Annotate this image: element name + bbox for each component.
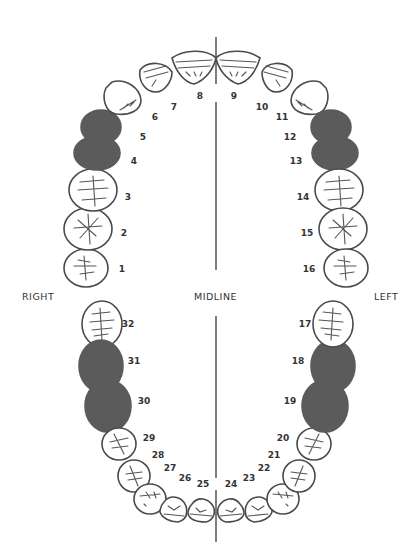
midline-label: MIDLINE — [194, 291, 237, 302]
tooth-number-17: 17 — [299, 319, 312, 329]
tooth-number-2: 2 — [121, 228, 127, 238]
tooth-number-30: 30 — [138, 396, 151, 406]
tooth-13[interactable] — [312, 136, 358, 170]
tooth-26[interactable] — [160, 497, 187, 522]
tooth-6[interactable] — [104, 81, 141, 114]
left-label: LEFT — [374, 291, 398, 302]
tooth-number-25: 25 — [197, 479, 210, 489]
tooth-number-18: 18 — [292, 356, 305, 366]
tooth-15[interactable] — [319, 208, 367, 250]
tooth-number-6: 6 — [152, 112, 158, 122]
right-label: RIGHT — [22, 291, 54, 302]
tooth-number-20: 20 — [277, 433, 290, 443]
tooth-7[interactable] — [140, 63, 172, 92]
tooth-number-28: 28 — [152, 450, 165, 460]
tooth-29[interactable] — [102, 428, 136, 460]
tooth-number-13: 13 — [290, 156, 303, 166]
tooth-number-23: 23 — [243, 473, 256, 483]
tooth-number-12: 12 — [284, 132, 297, 142]
tooth-14[interactable] — [315, 169, 363, 211]
tooth-8[interactable] — [172, 51, 216, 84]
tooth-number-8: 8 — [197, 91, 203, 101]
tooth-24[interactable] — [218, 499, 244, 522]
tooth-number-4: 4 — [131, 156, 137, 166]
tooth-9[interactable] — [216, 51, 260, 84]
tooth-number-15: 15 — [301, 228, 314, 238]
tooth-10[interactable] — [262, 63, 292, 92]
tooth-number-19: 19 — [284, 396, 297, 406]
tooth-number-7: 7 — [171, 102, 177, 112]
tooth-30[interactable] — [85, 380, 131, 432]
tooth-number-5: 5 — [140, 132, 146, 142]
tooth-number-26: 26 — [179, 473, 192, 483]
tooth-number-21: 21 — [268, 450, 281, 460]
tooth-number-11: 11 — [276, 112, 289, 122]
tooth-number-1: 1 — [119, 264, 125, 274]
tooth-number-10: 10 — [256, 102, 269, 112]
tooth-3[interactable] — [69, 169, 117, 211]
dental-chart: RIGHT MIDLINE LEFT 1 2 3 4 5 6 7 — [0, 0, 420, 557]
tooth-number-24: 24 — [225, 479, 238, 489]
tooth-20[interactable] — [297, 428, 331, 460]
tooth-2[interactable] — [64, 208, 112, 250]
tooth-21[interactable] — [283, 460, 315, 492]
tooth-11[interactable] — [291, 81, 328, 114]
tooth-number-16: 16 — [303, 264, 316, 274]
tooth-number-32: 32 — [122, 319, 135, 329]
tooth-25[interactable] — [188, 499, 214, 522]
tooth-number-29: 29 — [143, 433, 156, 443]
tooth-5[interactable] — [81, 110, 121, 144]
tooth-16[interactable] — [324, 249, 368, 287]
tooth-number-22: 22 — [258, 463, 271, 473]
tooth-number-3: 3 — [125, 192, 131, 202]
tooth-17[interactable] — [313, 301, 353, 347]
tooth-number-14: 14 — [297, 192, 310, 202]
tooth-number-27: 27 — [164, 463, 177, 473]
tooth-number-9: 9 — [231, 91, 237, 101]
tooth-number-31: 31 — [128, 356, 141, 366]
tooth-1[interactable] — [64, 249, 108, 287]
